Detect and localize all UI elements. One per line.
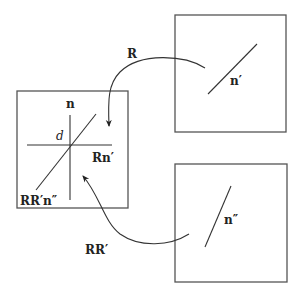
label-r: R — [127, 47, 138, 61]
label-rn-prime: Rn′ — [92, 151, 114, 165]
source-top-frame: n′ — [175, 15, 286, 132]
label-rr-n-double-prime: RR′n″ — [20, 194, 58, 208]
label-d: d — [56, 129, 64, 143]
target-frame: n d Rn′ RR′n″ — [17, 91, 128, 208]
label-n-double-prime: n″ — [224, 213, 239, 227]
arrow-r: R — [109, 47, 205, 126]
arrow-rr-prime: RR′ — [83, 176, 189, 257]
diagonal-normal — [36, 114, 96, 190]
label-rr-prime: RR′ — [85, 243, 108, 257]
label-n-prime: n′ — [230, 74, 242, 88]
label-n: n — [66, 97, 75, 111]
source-bottom-frame: n″ — [175, 164, 287, 282]
rotation-diagram: n d Rn′ RR′n″ n′ n″ R RR′ — [0, 0, 303, 296]
